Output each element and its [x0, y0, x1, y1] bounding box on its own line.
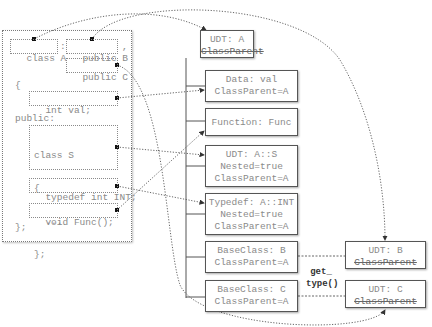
node-line: UDT: A::S: [206, 149, 297, 161]
node-line: Function: Func: [206, 117, 297, 129]
udt-a-classparent: ClassParent: [201, 46, 253, 58]
baseclass-c-node: BaseClass: C ClassParent=A: [205, 280, 298, 312]
node-line: Nested=true: [206, 209, 297, 221]
colon: :: [60, 41, 66, 52]
data-val-node: Data: val ClassParent=A: [205, 70, 298, 102]
get-type-label-line: get_: [306, 266, 336, 278]
function-func-node: Function: Func: [205, 108, 298, 136]
node-line: ClassParent=A: [206, 221, 297, 233]
udt-a-s-node: UDT: A::S Nested=true ClassParent=A: [205, 145, 298, 187]
nested-class-line: class S: [34, 150, 113, 161]
udt-b-classparent: ClassParent: [346, 257, 425, 269]
udt-c-classparent: ClassParent: [346, 296, 425, 308]
udt-a-title: UDT: A: [201, 34, 253, 46]
get-type-label: get_ type(): [306, 266, 336, 290]
class-decl: class A: [26, 53, 66, 64]
udt-b-node: UDT: B ClassParent: [345, 241, 426, 269]
class-decl-box: class A: [10, 39, 58, 54]
node-line: Nested=true: [206, 161, 297, 173]
close-brace: };: [15, 222, 26, 233]
node-line: Data: val: [206, 74, 297, 86]
udt-c-title: UDT: C: [346, 284, 425, 296]
node-line: Typedef: A::INT: [206, 197, 297, 209]
func-decl-box: void Func();: [29, 203, 118, 218]
typedef-box: typedef int INT;: [29, 178, 118, 193]
nested-class-line: };: [34, 249, 113, 260]
udt-b-title: UDT: B: [346, 245, 425, 257]
node-line: ClassParent=A: [206, 173, 297, 185]
base-c: public C: [82, 72, 128, 83]
udt-c-node: UDT: C ClassParent: [345, 280, 426, 308]
base-b-box: public B: [66, 39, 118, 54]
typedef-a-int-node: Typedef: A::INT Nested=true ClassParent=…: [205, 193, 298, 235]
typedef-decl: typedef int INT;: [45, 192, 136, 203]
nested-class-box: class S { ... };: [29, 125, 118, 170]
func-decl: void Func();: [45, 217, 113, 228]
comma: ,: [122, 41, 128, 52]
udt-a-node: UDT: A ClassParent: [200, 30, 254, 58]
open-brace: {: [15, 80, 21, 91]
get-type-label-line: type(): [306, 278, 336, 290]
node-line: ClassParent=A: [206, 257, 297, 269]
access-public: public:: [15, 113, 55, 124]
node-line: BaseClass: B: [206, 245, 297, 257]
member-val-box: int val;: [29, 91, 118, 106]
node-line: ClassParent=A: [206, 86, 297, 98]
base-c-box: public C: [66, 58, 118, 73]
baseclass-b-node: BaseClass: B ClassParent=A: [205, 241, 298, 273]
node-line: ClassParent=A: [206, 296, 297, 308]
node-line: BaseClass: C: [206, 284, 297, 296]
